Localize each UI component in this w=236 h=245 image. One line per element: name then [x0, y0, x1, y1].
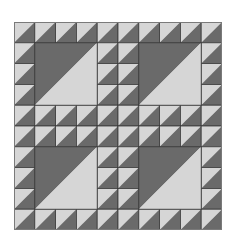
quilt-pattern — [14, 22, 222, 230]
quilt-svg — [14, 22, 222, 230]
